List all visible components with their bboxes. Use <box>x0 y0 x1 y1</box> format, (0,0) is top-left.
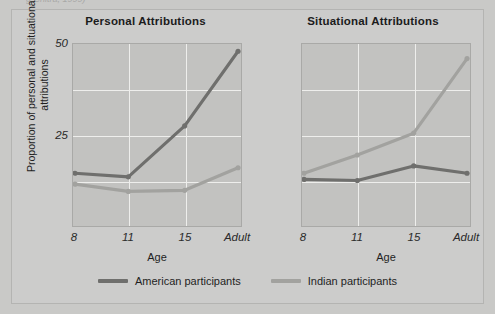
y-tick-25: 25 <box>55 129 68 141</box>
x-axis-title-situational: Age <box>301 251 471 263</box>
x-tick-8: 8 <box>71 231 77 243</box>
chart-panel-personal-attributions: Personal Attributions Proportion of pers… <box>12 10 255 272</box>
x-axis-title-personal: Age <box>72 251 242 263</box>
legend-label-indian: Indian participants <box>308 275 397 287</box>
cropped-caption-strip: g Chitra, 1999) <box>0 0 495 9</box>
legend-item-indian: Indian participants <box>271 275 397 287</box>
figure-container: Personal Attributions Proportion of pers… <box>11 9 484 304</box>
legend-label-american: American participants <box>135 275 241 287</box>
series-lines-personal <box>73 44 241 226</box>
y-axis-tick-labels: 50 25 <box>12 43 68 227</box>
x-tick-11: 11 <box>122 231 134 243</box>
x-tick-adult: Adult <box>224 231 250 243</box>
chart-panel-situational-attributions: Situational Attributions 8 11 15 Adult A… <box>255 10 485 272</box>
series-lines-situational <box>302 44 470 226</box>
x-tick-15: 15 <box>179 231 192 243</box>
panel-title-situational: Situational Attributions <box>255 15 485 27</box>
x-tick-11: 11 <box>351 231 363 243</box>
x-tick-adult: Adult <box>453 231 479 243</box>
legend-swatch-american <box>98 279 128 283</box>
x-axis-tick-labels-personal: 8 11 15 Adult <box>72 231 242 249</box>
x-tick-8: 8 <box>300 231 306 243</box>
chart-legend: American participants Indian participant… <box>12 275 483 287</box>
plot-area-personal <box>72 43 242 227</box>
x-tick-15: 15 <box>408 231 421 243</box>
y-tick-50: 50 <box>55 37 68 49</box>
legend-swatch-indian <box>271 279 301 283</box>
plot-area-situational <box>301 43 471 227</box>
x-axis-tick-labels-situational: 8 11 15 Adult <box>301 231 471 249</box>
legend-item-american: American participants <box>98 275 241 287</box>
